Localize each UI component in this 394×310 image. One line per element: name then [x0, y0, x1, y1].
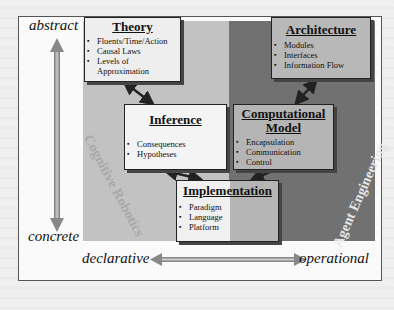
implementation-item: Platform: [177, 222, 278, 232]
implementation-item: Language: [177, 212, 278, 222]
inference-item: Consequences: [125, 139, 226, 149]
computational-model-title-line1: Computational: [234, 107, 333, 121]
computational-model-box: Computational Model Encapsulation Commun…: [233, 104, 334, 170]
architecture-box: Architecture Modules Interfaces Informat…: [271, 17, 371, 79]
theory-item: Causal Laws: [85, 46, 180, 56]
computational-model-title: Computational Model: [234, 107, 333, 135]
architecture-item: Information Flow: [272, 60, 370, 70]
horizontal-axis-arrow: [150, 253, 306, 266]
theory-inference-connector: [128, 85, 149, 101]
abstract-label: abstract: [29, 17, 78, 34]
architecture-title: Architecture: [272, 23, 370, 37]
computational-model-title-line2: Model: [234, 121, 333, 135]
operational-label: operational: [299, 250, 369, 267]
inference-box: Inference Consequences Hypotheses: [124, 104, 227, 170]
inference-title: Inference: [125, 113, 226, 127]
declarative-label: declarative: [82, 250, 149, 267]
architecture-item: Interfaces: [272, 50, 370, 60]
architecture-item: Modules: [272, 40, 370, 50]
theory-title: Theory: [85, 20, 180, 34]
concrete-label: concrete: [28, 228, 79, 245]
architecture-comp-connector: [299, 84, 313, 100]
theory-box: Theory Fluents/Time/Action Causal Laws L…: [84, 17, 181, 82]
computational-model-item: Communication: [234, 147, 333, 157]
computational-model-item: Encapsulation: [234, 137, 333, 147]
vertical-axis-arrow: [50, 38, 64, 232]
implementation-item: Paradigm: [177, 202, 278, 212]
theory-item: Fluents/Time/Action: [85, 36, 180, 46]
computational-model-item: Control: [234, 157, 333, 167]
implementation-box: Implementation Paradigm Language Platfor…: [176, 180, 279, 242]
theory-item-continued: Approximation: [85, 66, 180, 76]
inference-item: Hypotheses: [125, 149, 226, 159]
implementation-title: Implementation: [177, 184, 278, 198]
theory-item: Levels of: [85, 56, 180, 66]
inference-implementation-connector: [170, 172, 196, 178]
